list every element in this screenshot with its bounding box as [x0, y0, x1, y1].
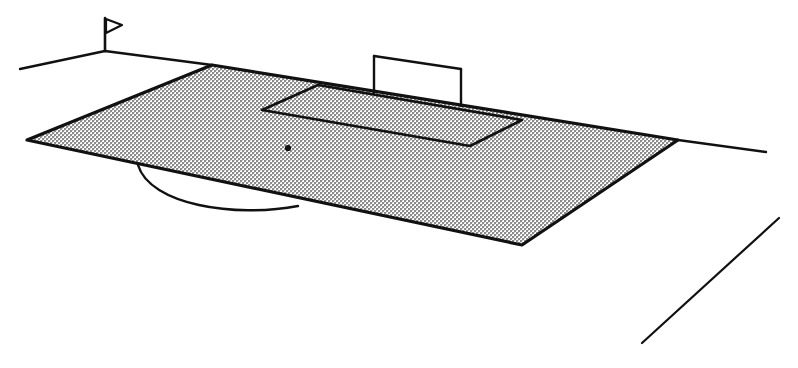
penalty-spot	[285, 145, 291, 151]
figure-root	[0, 0, 798, 368]
pitch-drawing	[0, 0, 798, 368]
